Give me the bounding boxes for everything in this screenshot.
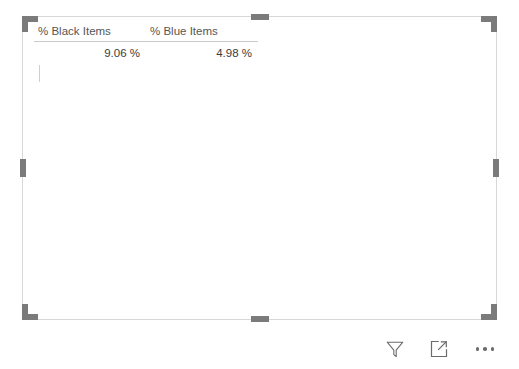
resize-handle-top-left[interactable] bbox=[22, 16, 38, 32]
ellipsis-dot bbox=[483, 347, 487, 351]
more-options-icon[interactable] bbox=[468, 334, 502, 364]
table-body: 9.06 % 4.98 % bbox=[34, 42, 258, 64]
handle-bar-vertical bbox=[22, 304, 28, 320]
data-table: % Black Items % Blue Items 9.06 % 4.98 % bbox=[34, 22, 258, 63]
table-header: % Black Items % Blue Items bbox=[34, 22, 258, 42]
ellipsis-dot bbox=[476, 347, 480, 351]
table-visual[interactable]: % Black Items % Blue Items 9.06 % 4.98 % bbox=[34, 22, 242, 63]
handle-bar-vertical bbox=[22, 16, 28, 32]
visual-footer-toolbar bbox=[380, 332, 510, 366]
resize-handle-top-mid[interactable] bbox=[251, 14, 269, 20]
table-header-row: % Black Items % Blue Items bbox=[34, 22, 258, 42]
ellipsis-dot bbox=[491, 347, 495, 351]
handle-bar-vertical bbox=[491, 304, 497, 320]
cell-black-items-value[interactable]: 9.06 % bbox=[34, 42, 146, 64]
focus-mode-glyph bbox=[428, 338, 450, 360]
resize-handle-bottom-mid[interactable] bbox=[251, 316, 269, 322]
resize-handle-left-mid[interactable] bbox=[20, 159, 26, 177]
resize-handle-bottom-left[interactable] bbox=[22, 304, 38, 320]
row-indicator-tick bbox=[39, 65, 40, 82]
table-visual-container[interactable]: % Black Items % Blue Items 9.06 % 4.98 % bbox=[22, 16, 497, 320]
filter-funnel-glyph bbox=[384, 338, 406, 360]
filter-funnel-icon[interactable] bbox=[380, 334, 410, 364]
resize-handle-bottom-right[interactable] bbox=[481, 304, 497, 320]
column-header-blue-items[interactable]: % Blue Items bbox=[146, 22, 258, 42]
cell-blue-items-value[interactable]: 4.98 % bbox=[146, 42, 258, 64]
column-header-black-items[interactable]: % Black Items bbox=[34, 22, 146, 42]
resize-handle-right-mid[interactable] bbox=[493, 159, 499, 177]
focus-mode-icon[interactable] bbox=[424, 334, 454, 364]
table-row[interactable]: 9.06 % 4.98 % bbox=[34, 42, 258, 64]
handle-bar-vertical bbox=[491, 16, 497, 32]
resize-handle-top-right[interactable] bbox=[481, 16, 497, 32]
